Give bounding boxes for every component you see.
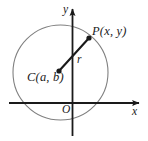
label-radius-r: r <box>77 54 82 66</box>
label-point-p: P(x, y) <box>92 25 127 38</box>
diagram-canvas <box>0 0 148 141</box>
point-p-dot <box>86 35 91 40</box>
label-axis-y: y <box>63 4 68 16</box>
circle-diagram: P(x, y) C(a, b) r O x y <box>0 0 148 141</box>
label-origin-o: O <box>62 104 71 116</box>
label-axis-x: x <box>132 106 137 118</box>
radius-segment <box>59 38 89 71</box>
label-center-c: C(a, b) <box>27 71 64 84</box>
